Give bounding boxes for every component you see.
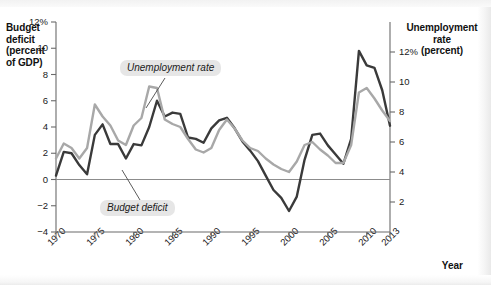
plot-area bbox=[0, 0, 491, 285]
series-group bbox=[56, 51, 390, 211]
axes-group bbox=[51, 22, 395, 237]
series-line-budget-deficit bbox=[56, 51, 390, 211]
leader-line-deficit bbox=[122, 170, 140, 200]
chart-figure: Budget deficit (percent of GDP) Unemploy… bbox=[0, 0, 491, 285]
